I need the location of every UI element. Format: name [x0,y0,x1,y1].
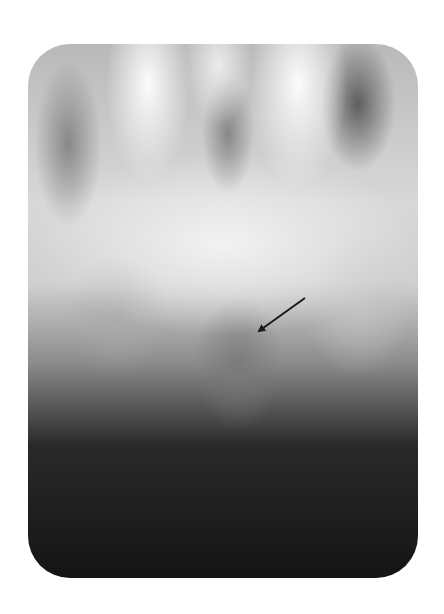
xray-image [28,44,418,578]
